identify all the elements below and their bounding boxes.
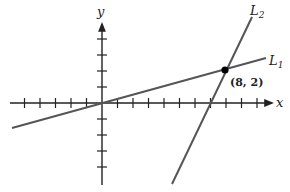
line-l2 bbox=[172, 17, 252, 184]
intersection-point bbox=[221, 66, 228, 73]
l1-label: L1 bbox=[268, 53, 283, 70]
y-axis-label: y bbox=[96, 4, 105, 19]
intersection-label: (8, 2) bbox=[230, 76, 263, 89]
l2-label: L2 bbox=[249, 3, 265, 20]
coordinate-plane: y x L2 L1 (8, 2) bbox=[0, 0, 290, 192]
x-axis-label: x bbox=[276, 95, 284, 110]
